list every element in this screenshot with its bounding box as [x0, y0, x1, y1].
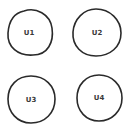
- node-u2[interactable]: U2: [73, 9, 121, 56]
- diagram-canvas: U1 U2 U3 U4: [0, 0, 130, 133]
- node-u2-label: U2: [92, 29, 103, 37]
- node-u1-label: U1: [24, 29, 35, 37]
- node-u1[interactable]: U1: [8, 10, 52, 55]
- node-u4[interactable]: U4: [77, 75, 122, 121]
- node-u3-label: U3: [26, 96, 37, 104]
- node-u4-label: U4: [94, 94, 105, 102]
- node-u3[interactable]: U3: [8, 76, 55, 123]
